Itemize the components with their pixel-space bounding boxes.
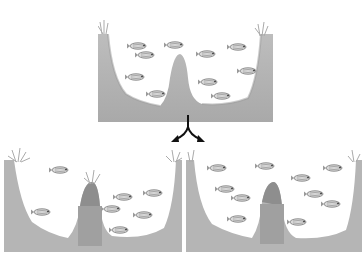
bottom-left-basin-panel: [4, 146, 182, 252]
split-arrow-icon: [168, 115, 208, 147]
top-basin-panel: [98, 18, 273, 122]
bottom-right-basin-panel: [186, 146, 362, 252]
